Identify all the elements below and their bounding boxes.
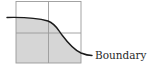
boundary-diagram: Boundary [0, 0, 152, 70]
boundary-label: Boundary [95, 49, 147, 61]
